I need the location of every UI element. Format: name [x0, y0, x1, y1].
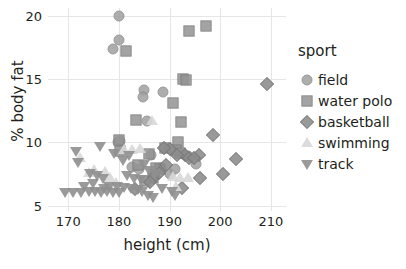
- circle-icon: [296, 71, 318, 89]
- y-tick-label: 15: [25, 72, 42, 87]
- triangle-up-icon: [301, 137, 313, 147]
- legend-item-water-polo[interactable]: water polo: [296, 90, 406, 111]
- x-axis-ticks: 170180190200210: [48, 0, 286, 240]
- x-tick-label: 180: [106, 214, 131, 229]
- legend-item-label: basketball: [318, 114, 390, 130]
- triangle-down-icon: [301, 160, 313, 170]
- triangle-down-icon: [296, 155, 318, 173]
- diamond-icon: [296, 113, 318, 131]
- square-icon: [296, 92, 318, 110]
- triangle-up-icon: [296, 134, 318, 152]
- legend-item-label: swimming: [318, 135, 390, 151]
- legend-title: sport: [296, 42, 406, 60]
- legend-item-label: field: [318, 72, 348, 88]
- legend-entries: fieldwater polobasketballswimmingtrack: [296, 69, 406, 174]
- legend-item-field[interactable]: field: [296, 69, 406, 90]
- y-tick-label: 20: [25, 8, 42, 23]
- circle-icon: [302, 74, 313, 85]
- square-icon: [302, 95, 313, 106]
- legend-item-swimming[interactable]: swimming: [296, 132, 406, 153]
- legend-item-basketball[interactable]: basketball: [296, 111, 406, 132]
- legend: sport fieldwater polobasketballswimmingt…: [296, 42, 406, 174]
- scatter-plot-figure: 5101520 % body fat 170180190200210 heigh…: [0, 0, 406, 269]
- y-tick-label: 10: [25, 135, 42, 150]
- x-tick-label: 200: [208, 214, 233, 229]
- legend-item-track[interactable]: track: [296, 153, 406, 174]
- y-axis-title: % body fat: [9, 31, 27, 171]
- y-tick-label: 5: [34, 198, 42, 213]
- x-tick-label: 170: [56, 214, 81, 229]
- x-tick-label: 190: [157, 214, 182, 229]
- x-axis-title: height (cm): [48, 236, 286, 254]
- legend-item-label: water polo: [318, 93, 392, 109]
- legend-item-label: track: [318, 156, 354, 172]
- diamond-icon: [300, 114, 314, 128]
- x-tick-label: 210: [258, 214, 283, 229]
